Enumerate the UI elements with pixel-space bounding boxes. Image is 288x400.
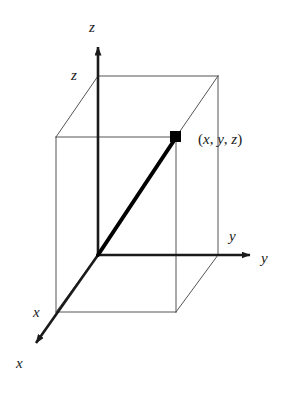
box-edge-bottom-right xyxy=(176,255,218,312)
box-bottom-face xyxy=(56,255,218,312)
point-coordinates-label: (x, y, z) xyxy=(198,132,242,147)
y-axis-label: y xyxy=(261,251,268,266)
y-coordinate-label: y xyxy=(229,229,236,244)
coordinate-system-figure: z z y y x x (x, y, z) xyxy=(0,0,288,400)
figure-canvas xyxy=(0,0,288,400)
z-axis-label: z xyxy=(89,20,95,35)
x-coordinate-label: x xyxy=(33,305,40,320)
point-x: x xyxy=(203,131,210,147)
position-vector xyxy=(98,139,175,255)
point-marker xyxy=(170,131,181,142)
x-axis-label: x xyxy=(16,356,23,371)
point-paren-close: ) xyxy=(237,131,242,147)
box-top-face xyxy=(56,76,218,137)
box-edge-top-right xyxy=(176,76,218,137)
z-coordinate-label: z xyxy=(71,68,77,83)
box-edge-top-left xyxy=(56,76,98,137)
point-y: y xyxy=(217,131,224,147)
x-axis-line xyxy=(36,255,98,343)
